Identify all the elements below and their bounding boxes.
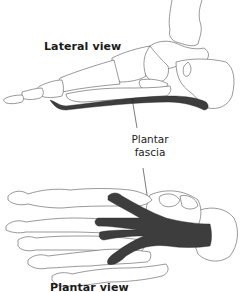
plantar-view-illustration bbox=[0, 0, 245, 292]
foot-anatomy-diagram: Lateral view Plantar fascia Plantar view bbox=[0, 0, 245, 292]
plantar-view-label: Plantar view bbox=[50, 281, 129, 292]
